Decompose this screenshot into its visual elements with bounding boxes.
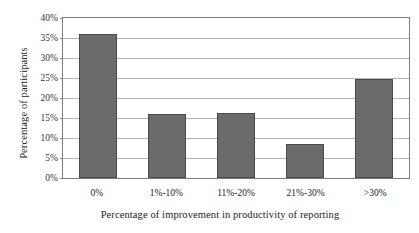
x-axis-tick-label: 0% — [62, 186, 132, 200]
bar-slot — [63, 18, 132, 178]
y-axis-tick-labels: 40%35%30%25%20%15%10%5%0% — [22, 12, 60, 182]
x-axis-tick-label: >30% — [340, 186, 410, 200]
y-axis-tick-label: 15% — [22, 113, 58, 123]
x-axis-title: Percentage of improvement in productivit… — [40, 208, 400, 222]
y-axis-tick-label: 35% — [22, 33, 58, 43]
bar — [148, 114, 186, 178]
bar — [79, 34, 117, 178]
bar-series — [63, 18, 409, 178]
x-axis-tick-label: 1%-10% — [132, 186, 202, 200]
y-axis-tick-label: 20% — [22, 93, 58, 103]
bar — [355, 79, 393, 178]
x-axis-tick-label: 21%-30% — [271, 186, 341, 200]
plot-area — [62, 17, 410, 179]
x-axis-tick-labels: 0%1%-10%11%-20%21%-30%>30% — [62, 186, 410, 200]
y-axis-tick-label: 10% — [22, 133, 58, 143]
bar — [286, 144, 324, 178]
y-axis-tick-label: 0% — [22, 173, 58, 183]
y-axis-tick-label: 5% — [22, 153, 58, 163]
bar-slot — [340, 18, 409, 178]
bar-slot — [132, 18, 201, 178]
y-axis-tick-label: 30% — [22, 53, 58, 63]
bar — [217, 113, 255, 178]
bar-slot — [201, 18, 270, 178]
y-axis-tick-label: 25% — [22, 73, 58, 83]
x-axis-tick-label: 11%-20% — [201, 186, 271, 200]
bar-chart-figure: Percentage of participants 40%35%30%25%2… — [0, 0, 419, 233]
y-axis-tick-label: 40% — [22, 13, 58, 23]
bar-slot — [271, 18, 340, 178]
